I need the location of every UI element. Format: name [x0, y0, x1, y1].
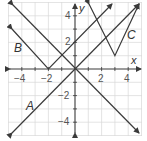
y-tick-4: 4	[65, 10, 71, 21]
x-tick-4: 4	[124, 73, 130, 84]
y-tick-neg2: −2	[58, 90, 70, 101]
label-C: C	[127, 28, 136, 42]
label-A: A	[25, 99, 34, 113]
x-tick-neg2: −2	[41, 73, 53, 84]
x-axis-label: x	[130, 54, 137, 66]
y-tick-2: 2	[65, 36, 71, 47]
x-tick-2: 2	[98, 73, 104, 84]
y-tick-neg4: −4	[58, 116, 70, 127]
coordinate-plane: −4 −2 2 4 4 2 −2 −4 y x B A C	[0, 0, 147, 141]
x-tick-neg4: −4	[14, 73, 26, 84]
y-axis-label: y	[78, 2, 86, 14]
label-B: B	[14, 41, 22, 55]
